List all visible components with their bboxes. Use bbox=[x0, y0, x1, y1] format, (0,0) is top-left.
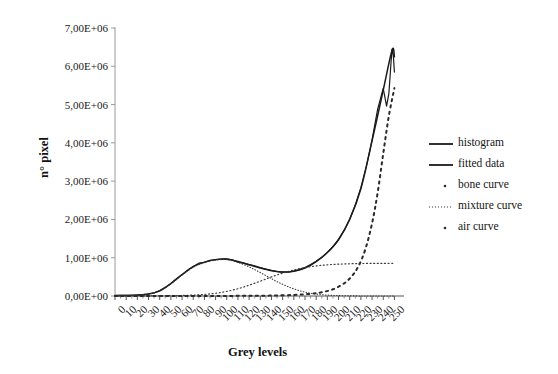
legend-marker-solid-line bbox=[428, 136, 454, 148]
axis-lines bbox=[111, 27, 404, 300]
legend-marker-dotted-line bbox=[428, 199, 454, 211]
legend-item: mixture curve bbox=[428, 194, 554, 215]
legend-label: air curve bbox=[458, 220, 499, 232]
y-tick-label: 6,00E+06 bbox=[40, 60, 108, 72]
legend-label: mixture curve bbox=[458, 199, 522, 211]
series-bone-curve bbox=[115, 259, 394, 296]
series-air-curve bbox=[115, 88, 394, 296]
y-axis-title: n° pixel bbox=[37, 98, 52, 218]
legend-marker-dot bbox=[428, 178, 454, 190]
legend-item: air curve bbox=[428, 215, 554, 236]
y-tick-label: 1,00E+06 bbox=[40, 252, 108, 264]
legend-label: histogram bbox=[458, 136, 504, 148]
series-fitted-data bbox=[115, 48, 394, 295]
legend-marker-solid-line bbox=[428, 157, 454, 169]
series-mixture-curve bbox=[115, 263, 394, 296]
legend-item: histogram bbox=[428, 131, 554, 152]
y-tick-label: 0,00E+00 bbox=[40, 290, 108, 302]
legend-label: fitted data bbox=[458, 157, 504, 169]
legend-item: bone curve bbox=[428, 173, 554, 194]
x-axis-title: Grey levels bbox=[115, 345, 400, 360]
y-tick-label: 7,00E+06 bbox=[40, 22, 108, 34]
legend-item: fitted data bbox=[428, 152, 554, 173]
histogram-figure: 0,00E+001,00E+062,00E+063,00E+064,00E+06… bbox=[0, 0, 558, 374]
chart-legend: histogramfitted databone curvemixture cu… bbox=[428, 131, 554, 236]
legend-label: bone curve bbox=[458, 178, 509, 190]
legend-marker-dot bbox=[428, 220, 454, 232]
series-histogram bbox=[115, 49, 394, 295]
